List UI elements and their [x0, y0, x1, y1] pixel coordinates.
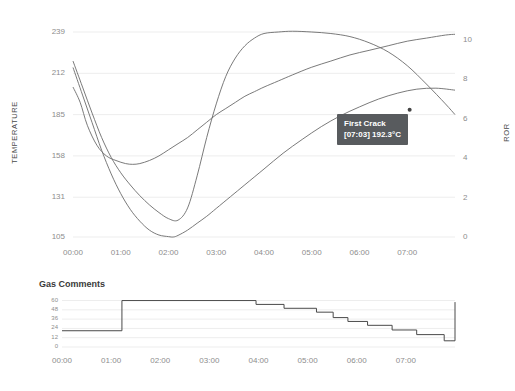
gas-time-tick-label: 07:00 — [386, 356, 426, 365]
ror-tick-label: 0 — [463, 232, 495, 241]
gas-comments-chart: Gas Comments 60483624120 00:0001:0002:00… — [0, 268, 515, 391]
gas-value-tick-label: 48 — [36, 306, 58, 312]
time-tick-label: 07:00 — [387, 248, 427, 257]
time-tick-label: 01:00 — [101, 248, 141, 257]
first-crack-tooltip[interactable]: First Crack [07:03] 192.3°C — [337, 114, 408, 145]
time-tick-label: 03:00 — [196, 248, 236, 257]
temperature-tick-label: 185 — [33, 110, 65, 119]
tooltip-detail: [07:03] 192.3°C — [344, 129, 401, 140]
gas-value-tick-label: 60 — [36, 297, 58, 303]
gas-time-tick-label: 00:00 — [42, 356, 82, 365]
main-chart-plot — [0, 0, 515, 268]
time-tick-label: 00:00 — [53, 248, 93, 257]
first-crack-point-marker[interactable] — [408, 108, 412, 112]
gas-chart-gridlines — [62, 301, 455, 347]
gas-chart-plot — [0, 268, 515, 391]
gas-value-tick-label: 0 — [36, 343, 58, 349]
temperature-tick-label: 212 — [33, 68, 65, 77]
ror-tick-label: 2 — [463, 193, 495, 202]
gas-chart-step-line — [62, 301, 455, 341]
ror-tick-label: 8 — [463, 74, 495, 83]
temperature-tick-label: 105 — [33, 232, 65, 241]
gas-time-tick-label: 02:00 — [140, 356, 180, 365]
series-line — [73, 67, 455, 237]
temperature-axis-title: TEMPERATURE — [10, 93, 19, 173]
tooltip-title: First Crack — [344, 118, 401, 129]
temperature-tick-label: 239 — [33, 27, 65, 36]
roast-profile-screen: TEMPERATURE ROR 239212185158131105 10864… — [0, 0, 515, 391]
temperature-ror-chart: TEMPERATURE ROR 239212185158131105 10864… — [0, 0, 515, 268]
gas-value-tick-label: 24 — [36, 324, 58, 330]
time-tick-label: 02:00 — [149, 248, 189, 257]
gas-value-tick-label: 36 — [36, 315, 58, 321]
temperature-tick-label: 131 — [33, 192, 65, 201]
time-tick-label: 06:00 — [340, 248, 380, 257]
time-tick-label: 04:00 — [244, 248, 284, 257]
ror-tick-label: 4 — [463, 153, 495, 162]
ror-axis-title: ROR — [502, 93, 511, 173]
gas-time-tick-label: 04:00 — [239, 356, 279, 365]
ror-tick-label: 6 — [463, 114, 495, 123]
gas-value-tick-label: 12 — [36, 334, 58, 340]
time-tick-label: 05:00 — [292, 248, 332, 257]
gas-time-tick-label: 05:00 — [288, 356, 328, 365]
gas-time-tick-label: 06:00 — [337, 356, 377, 365]
gas-step-series — [62, 301, 455, 341]
temperature-tick-label: 158 — [33, 151, 65, 160]
gas-time-tick-label: 01:00 — [91, 356, 131, 365]
ror-tick-label: 10 — [463, 35, 495, 44]
gas-time-tick-label: 03:00 — [189, 356, 229, 365]
